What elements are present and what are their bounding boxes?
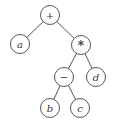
- node-plus: +: [41, 6, 60, 25]
- node-a: a: [11, 35, 30, 54]
- edges: [20, 15, 96, 108]
- node-label: −: [60, 72, 68, 83]
- node-times: *: [72, 36, 91, 55]
- node-c: c: [71, 99, 90, 118]
- node-label: a: [17, 39, 23, 50]
- node-d: d: [87, 68, 106, 87]
- node-label: d: [93, 72, 99, 83]
- expression-tree: + a * − d b c: [0, 0, 117, 125]
- node-label: c: [77, 103, 83, 114]
- node-minus: −: [55, 68, 74, 87]
- node-b: b: [41, 99, 60, 118]
- node-label: *: [78, 39, 85, 53]
- node-label: +: [46, 10, 54, 21]
- node-label: b: [47, 103, 53, 114]
